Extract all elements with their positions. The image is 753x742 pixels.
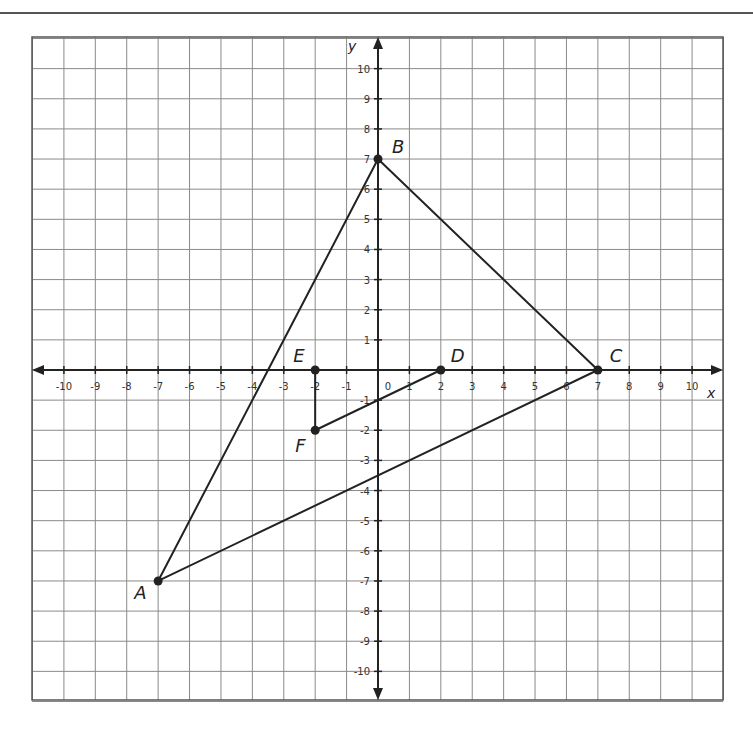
y-tick-label: 8 bbox=[364, 124, 370, 135]
x-tick-label: 7 bbox=[595, 381, 601, 392]
y-tick-label: -5 bbox=[360, 516, 370, 527]
x-axis-right-arrow-icon bbox=[711, 365, 723, 375]
y-tick-label: 5 bbox=[364, 214, 370, 225]
x-tick-label: -5 bbox=[216, 381, 226, 392]
y-tick-label: -6 bbox=[360, 546, 370, 557]
y-tick-label: 3 bbox=[364, 275, 370, 286]
y-tick-label: -3 bbox=[360, 455, 370, 466]
point-label-a: A bbox=[133, 582, 146, 603]
point-label-e: E bbox=[293, 345, 305, 366]
y-tick-label: 2 bbox=[364, 305, 370, 316]
x-tick-label: -8 bbox=[122, 381, 132, 392]
y-tick-label: -4 bbox=[360, 486, 370, 497]
point-b bbox=[374, 155, 383, 164]
point-label-b: B bbox=[392, 136, 404, 157]
y-axis-label: y bbox=[347, 38, 357, 54]
x-tick-label: -1 bbox=[342, 381, 352, 392]
y-tick-label: 1 bbox=[364, 335, 370, 346]
y-tick-label: -2 bbox=[360, 425, 370, 436]
point-e bbox=[311, 366, 320, 375]
point-f bbox=[311, 426, 320, 435]
y-axis-down-arrow-icon bbox=[373, 688, 383, 700]
point-label-f: F bbox=[295, 435, 306, 456]
x-axis-label: x bbox=[706, 385, 716, 401]
x-tick-label: 8 bbox=[626, 381, 632, 392]
x-tick-label: -6 bbox=[185, 381, 195, 392]
x-tick-label: -10 bbox=[56, 381, 72, 392]
y-tick-label: 9 bbox=[364, 94, 370, 105]
y-tick-label: 7 bbox=[364, 154, 370, 165]
x-tick-label: 2 bbox=[438, 381, 444, 392]
point-label-d: D bbox=[451, 345, 465, 366]
y-tick-label: -7 bbox=[360, 576, 370, 587]
y-tick-label: 10 bbox=[357, 64, 370, 75]
x-axis-left-arrow-icon bbox=[32, 365, 44, 375]
x-tick-label: -4 bbox=[247, 381, 257, 392]
point-label-c: C bbox=[610, 345, 623, 366]
coordinate-plane: -10-9-8-7-6-5-4-3-2-10123456789101098765… bbox=[0, 0, 753, 742]
point-d bbox=[436, 366, 445, 375]
point-a bbox=[154, 576, 163, 585]
x-tick-label: 9 bbox=[657, 381, 663, 392]
y-tick-label: -10 bbox=[354, 666, 370, 677]
x-tick-label: -3 bbox=[279, 381, 289, 392]
x-tick-label: 4 bbox=[500, 381, 506, 392]
x-tick-label: -7 bbox=[153, 381, 163, 392]
x-tick-label: 10 bbox=[686, 381, 699, 392]
point-c bbox=[593, 366, 602, 375]
x-tick-label: -9 bbox=[90, 381, 100, 392]
y-tick-label: -8 bbox=[360, 606, 370, 617]
x-tick-label: 0 bbox=[385, 381, 391, 392]
x-tick-label: 5 bbox=[532, 381, 538, 392]
x-tick-label: 3 bbox=[469, 381, 475, 392]
y-tick-label: -9 bbox=[360, 636, 370, 647]
y-tick-label: 4 bbox=[364, 244, 370, 255]
